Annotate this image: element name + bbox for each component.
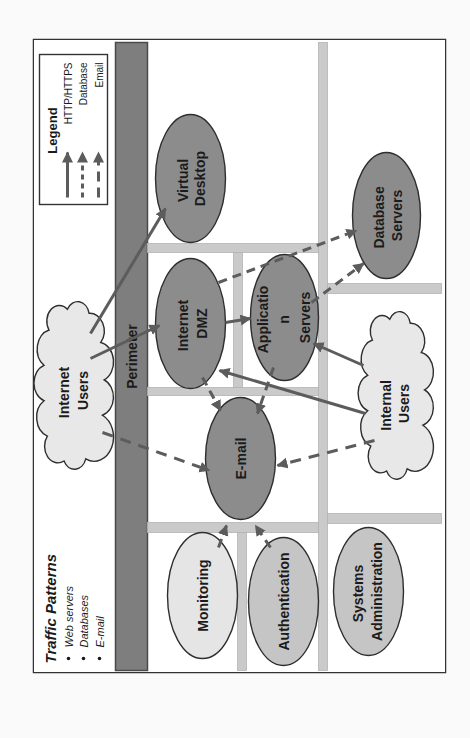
legend-label-database: Database [77, 62, 88, 105]
node-monitoring: Monitoring [167, 532, 237, 658]
zone-bar [147, 522, 318, 532]
node-email: E-mail [205, 397, 275, 519]
perimeter-label: Perimeter [123, 323, 139, 388]
node-authentication: Authentication [248, 537, 318, 665]
zone-bar [327, 283, 441, 293]
node-systems-administration: Systems Administration [333, 527, 403, 655]
zone-bar [327, 513, 441, 523]
zone-bar [237, 532, 246, 670]
network-traffic-diagram: Traffic Patterns Web servers Databases E… [32, 38, 446, 673]
node-database-servers: Database Servers [352, 152, 420, 278]
node-application-servers: Applicatio n Servers [250, 254, 318, 380]
traffic-pattern-item: Databases [77, 594, 89, 647]
node-virtual-desktop: Virtual Desktop [155, 114, 225, 242]
zone-bar-internal-boundary [318, 42, 327, 670]
traffic-pattern-item: E-mail [93, 615, 105, 647]
node-label: E-mail [232, 437, 248, 479]
node-internet-dmz: Internet DMZ [155, 258, 225, 388]
traffic-patterns-title: Traffic Patterns [41, 554, 58, 664]
legend-title: Legend [44, 107, 59, 153]
legend-label-http: HTTP/HTTPS [62, 62, 73, 124]
zone-bar [147, 243, 318, 252]
legend: Legend HTTP/HTTPS Database Email [39, 54, 107, 204]
node-label: Authentication [275, 552, 291, 650]
node-label: Monitoring [194, 559, 210, 631]
traffic-pattern-item: Web servers [62, 585, 74, 647]
legend-label-email: Email [93, 62, 104, 87]
